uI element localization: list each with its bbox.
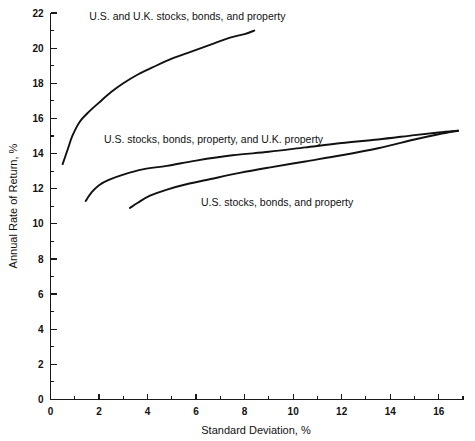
y-axis-title: Annual Rate of Return, % — [7, 143, 19, 268]
x-axis-tick-labels: 0246810121416 — [48, 406, 445, 417]
x-tick-label: 12 — [336, 406, 348, 417]
x-tick-label: 6 — [193, 406, 199, 417]
chart-figure: 0246810121416182022 0246810121416 Standa… — [0, 0, 475, 441]
x-tick-label: 4 — [145, 406, 151, 417]
y-tick-label: 16 — [32, 113, 44, 124]
y-tick-label: 8 — [38, 254, 44, 265]
data-curves — [63, 31, 459, 208]
efficient-frontier-chart: 0246810121416182022 0246810121416 Standa… — [0, 0, 475, 441]
x-tick-label: 16 — [433, 406, 445, 417]
y-tick-label: 12 — [32, 183, 44, 194]
y-tick-label: 20 — [32, 43, 44, 54]
y-tick-label: 18 — [32, 78, 44, 89]
y-axis-tick-labels: 0246810121416182022 — [32, 8, 44, 406]
y-tick-label: 14 — [32, 148, 44, 159]
series-label-2: U.S. stocks, bonds, and property — [201, 196, 354, 208]
y-tick-label: 10 — [32, 218, 44, 229]
series-label-1: U.S. stocks, bonds, property, and U.K. p… — [104, 133, 324, 145]
y-tick-label: 6 — [38, 289, 44, 300]
y-tick-label: 2 — [38, 359, 44, 370]
x-tick-label: 2 — [96, 406, 102, 417]
x-axis-title: Standard Deviation, % — [201, 424, 311, 436]
series-label-0: U.S. and U.K. stocks, bonds, and propert… — [89, 10, 286, 22]
x-tick-label: 8 — [242, 406, 248, 417]
y-tick-label: 4 — [38, 324, 44, 335]
y-tick-label: 22 — [32, 8, 44, 19]
y-axis-ticks — [51, 13, 57, 400]
x-axis-ticks — [51, 394, 464, 400]
x-tick-label: 0 — [48, 406, 54, 417]
y-tick-label: 0 — [38, 394, 44, 405]
x-tick-label: 10 — [288, 406, 300, 417]
x-tick-label: 14 — [385, 406, 397, 417]
